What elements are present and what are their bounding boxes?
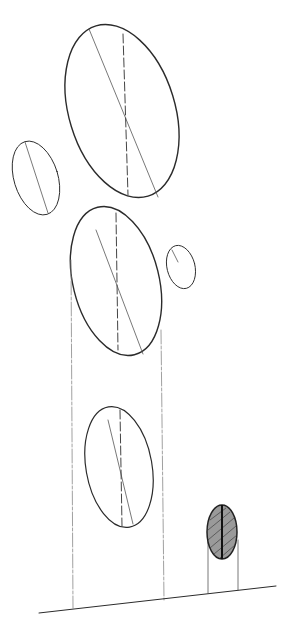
ellipse-lower xyxy=(76,401,162,533)
guide-line-right xyxy=(161,330,164,600)
ellipse-right-small xyxy=(162,242,200,291)
ellipse-middle xyxy=(56,197,176,365)
ellipse-shaded-small xyxy=(207,505,238,593)
sketch-canvas xyxy=(0,0,293,633)
ellipse-top-large xyxy=(45,10,198,211)
ellipse-left-small xyxy=(4,135,68,221)
guide-line-left xyxy=(71,260,73,608)
ground-line xyxy=(39,586,276,613)
